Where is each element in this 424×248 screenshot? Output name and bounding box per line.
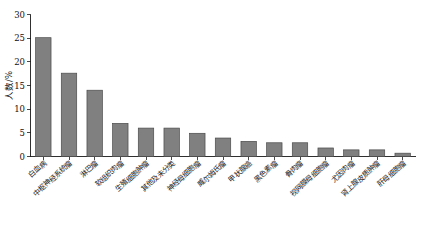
y-axis-tick-label: 25 (14, 33, 25, 43)
bar (344, 150, 359, 157)
bar (164, 128, 179, 156)
y-axis-title: 人数/% (4, 71, 14, 100)
y-axis-tick-label: 20 (14, 57, 25, 67)
chart-canvas: 051015202530人数/%白血病中枢神经系统瘤淋巴瘤软组织肉瘤生殖细胞肿瘤… (0, 0, 424, 248)
bar (138, 128, 153, 156)
bar (215, 138, 230, 156)
bar (61, 73, 76, 156)
bar-chart-figure: 051015202530人数/%白血病中枢神经系统瘤淋巴瘤软组织肉瘤生殖细胞肿瘤… (0, 0, 424, 248)
bar (267, 143, 282, 157)
x-axis-category-label: 威尔姆氏瘤 (196, 158, 229, 189)
y-axis-tick-label: 15 (14, 81, 25, 91)
x-axis-category-label: 淋巴瘤 (78, 158, 100, 179)
bar (36, 38, 51, 157)
bar (87, 90, 102, 156)
bar (113, 123, 128, 156)
y-axis-tick-label: 5 (20, 128, 25, 138)
bar (369, 150, 384, 157)
bar (241, 141, 256, 156)
x-axis-category-label: 甲状腺癌 (227, 158, 255, 184)
x-axis-category-label: 肝母细胞瘤 (375, 158, 408, 189)
bar (292, 143, 307, 157)
bar (395, 153, 410, 156)
y-axis-tick-label: 10 (14, 104, 25, 114)
x-axis-category-label: 骨肉瘤 (283, 158, 305, 179)
y-axis-tick-label: 30 (14, 10, 25, 20)
y-axis-tick-label: 0 (20, 152, 25, 162)
bar (190, 133, 205, 156)
x-axis-category-label: 白血病 (27, 158, 49, 179)
x-axis-category-label: 黑色素瘤 (252, 158, 280, 184)
bar (318, 148, 333, 157)
